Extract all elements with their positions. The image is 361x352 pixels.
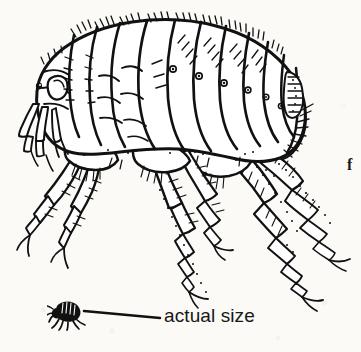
tarsal-claw <box>51 248 64 262</box>
flea-silhouette-icon <box>47 298 91 332</box>
flea-figure: actual size f <box>0 0 361 352</box>
tarsal-claw <box>64 248 68 268</box>
figure-caption-letter: f <box>347 157 352 173</box>
leader-line <box>84 311 160 318</box>
tarsal-claw <box>214 246 233 250</box>
tarsal-claw <box>28 235 30 256</box>
sensilium <box>283 68 313 159</box>
eye <box>36 82 42 89</box>
actual-size-label: actual size <box>164 305 255 327</box>
